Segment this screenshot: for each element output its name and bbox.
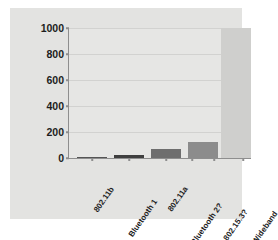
- ytick-label-800: 800: [46, 49, 64, 60]
- xtick-mark-5: [242, 158, 244, 161]
- ytick-label-0: 0: [58, 153, 64, 164]
- xtick-label-802-11b-text: 802.11b: [93, 186, 116, 214]
- ytick-mark-600: [66, 79, 69, 81]
- xtick-label-bluetooth-2-text: Bluetooth 2?: [190, 202, 225, 233]
- xtick-mark-2: [165, 158, 167, 161]
- xtick-mark-4: [213, 158, 215, 161]
- ytick-label-1000: 1000: [41, 23, 64, 34]
- xtick-mark-1: [128, 158, 130, 161]
- ytick-mark-200: [66, 131, 69, 133]
- ytick-mark-400: [66, 105, 69, 107]
- xtick-label-bluetooth-1-text: Bluetooth 1: [128, 198, 160, 233]
- plot-area: 1000 800 600 400 200 0 802.11b B: [68, 28, 251, 159]
- ytick-label-400: 400: [46, 101, 64, 112]
- bar-bluetooth-2[interactable]: [188, 142, 218, 158]
- xtick-mark-0: [91, 158, 93, 161]
- ytick-mark-800: [66, 53, 69, 55]
- bar-ultra-wideband[interactable]: [221, 28, 251, 158]
- bar-chart-figure: 1000 800 600 400 200 0 802.11b B: [0, 0, 264, 233]
- chart-panel: 1000 800 600 400 200 0 802.11b B: [10, 8, 242, 219]
- xtick-label-802-11a-text: 802.11a: [167, 185, 190, 213]
- bar-802-11a[interactable]: [151, 149, 181, 158]
- xtick-label-802-11b: 802.11b: [109, 162, 132, 190]
- ytick-label-200: 200: [46, 127, 64, 138]
- ytick-mark-0: [66, 157, 69, 159]
- ytick-label-600: 600: [46, 75, 64, 86]
- xtick-label-802-11a: 802.11a: [183, 162, 206, 190]
- ytick-mark-1000: [66, 27, 69, 29]
- xtick-mark-3: [191, 158, 193, 161]
